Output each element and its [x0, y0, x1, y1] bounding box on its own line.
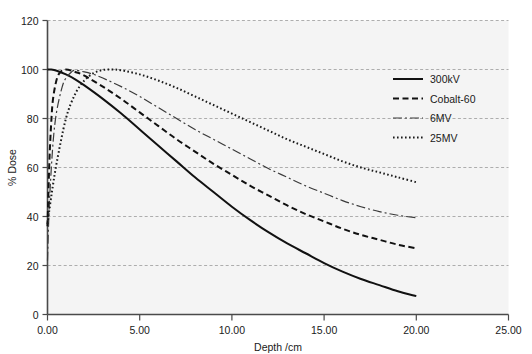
- y-axis-ticks: 020406080100120: [21, 15, 48, 321]
- y-tick-label: 80: [27, 113, 39, 125]
- y-tick-label: 60: [27, 162, 39, 174]
- x-axis-ticks: 0.005.0010.0015.0020.0025.00: [37, 315, 522, 336]
- y-tick-label: 0: [33, 309, 39, 321]
- y-tick-label: 20: [27, 260, 39, 272]
- plot-background: [48, 21, 509, 315]
- y-axis-title: % Dose: [6, 149, 18, 186]
- x-tick-label: 10.00: [219, 324, 245, 336]
- x-tick-label: 25.00: [495, 324, 521, 336]
- legend-label-2: 6MV: [430, 112, 452, 124]
- x-tick-label: 5.00: [129, 324, 150, 336]
- dose-depth-chart: 0204060801001200.005.0010.0015.0020.0025…: [0, 0, 532, 354]
- y-tick-label: 40: [27, 211, 39, 223]
- y-tick-label: 100: [21, 64, 39, 76]
- x-axis-title: Depth /cm: [254, 341, 302, 353]
- legend-label-0: 300kV: [430, 73, 460, 85]
- chart-canvas: 0204060801001200.005.0010.0015.0020.0025…: [0, 0, 532, 354]
- x-tick-label: 0.00: [37, 324, 58, 336]
- x-tick-label: 20.00: [403, 324, 429, 336]
- legend-label-1: Cobalt-60: [430, 93, 476, 105]
- y-tick-label: 120: [21, 15, 39, 27]
- x-tick-label: 15.00: [311, 324, 337, 336]
- legend-label-3: 25MV: [430, 132, 457, 144]
